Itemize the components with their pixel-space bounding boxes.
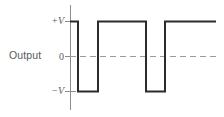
y-tick-label-ground: 0 — [38, 51, 64, 62]
y-tick-label-positive-rail: +V — [38, 15, 64, 26]
output-waveform-figure: Output +V 0 −V — [0, 0, 224, 117]
y-tick-label-negative-rail: −V — [38, 85, 64, 96]
